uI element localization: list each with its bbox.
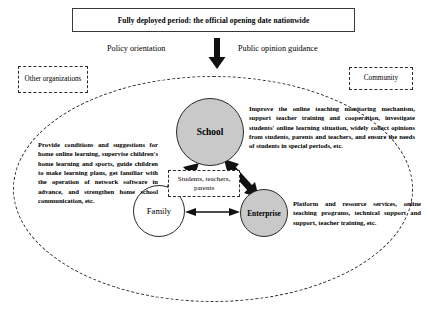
- node-school-label: School: [197, 127, 224, 137]
- diagram-canvas: Fully deployed period: the official open…: [0, 0, 427, 315]
- node-family-label: Family: [147, 206, 171, 216]
- students-teachers-parents-label: Students, teachers, parents: [169, 175, 239, 193]
- node-enterprise-label: Enterprise: [247, 209, 281, 218]
- family-enterprise-arrow: [185, 208, 240, 216]
- school-description: Improve the online teaching monitoring m…: [249, 104, 415, 151]
- enterprise-description: Platform and resource services, online t…: [293, 199, 421, 227]
- students-teachers-parents-box: Students, teachers, parents: [168, 170, 240, 197]
- node-enterprise: Enterprise: [240, 189, 288, 237]
- node-school: School: [176, 98, 244, 166]
- family-description: Provide conditions and suggestions for h…: [38, 140, 158, 206]
